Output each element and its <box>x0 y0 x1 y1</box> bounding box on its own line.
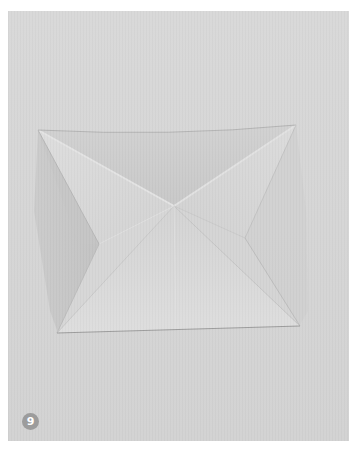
step-number-badge: 9 <box>22 413 39 430</box>
texture-overlay <box>8 11 349 441</box>
origami-photo: 9 <box>8 11 349 441</box>
folded-paper-illustration <box>8 11 349 441</box>
